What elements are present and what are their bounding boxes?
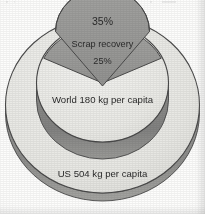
chart-svg: 35% Scrap recovery 25% World 180 kg per …: [0, 0, 205, 214]
label-scrap-recovery-title: Scrap recovery: [72, 39, 134, 49]
label-world-caption: World 180 kg per capita: [52, 94, 154, 105]
label-outer-percent: 35%: [92, 15, 113, 27]
label-inner-percent: 25%: [93, 56, 111, 66]
concentric-disc-chart: 35% Scrap recovery 25% World 180 kg per …: [0, 0, 205, 214]
label-us-caption: US 504 kg per capita: [58, 168, 148, 179]
